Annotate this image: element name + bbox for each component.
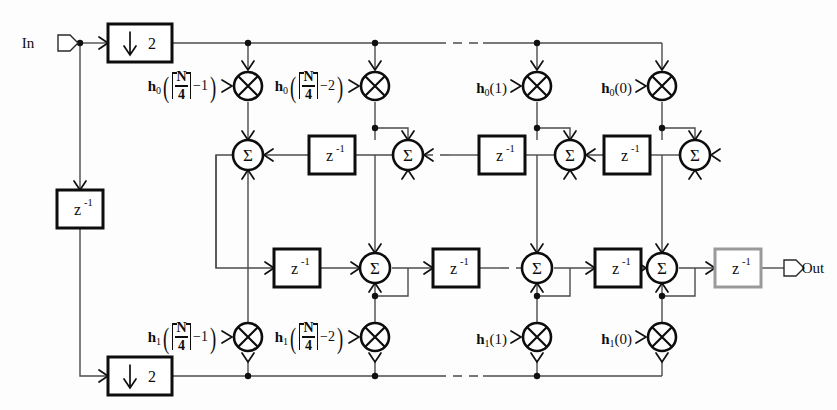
junction-msum2-hook — [534, 293, 540, 299]
arrowhead-h1mult3-bottom — [531, 353, 543, 362]
delay-left-base: z — [74, 201, 81, 218]
wiring-layer — [80, 43, 784, 376]
delay-m2-exp: -1 — [460, 256, 469, 267]
delay-left-exp: -1 — [84, 197, 93, 208]
junction-h0tap2-branch — [372, 125, 378, 131]
junction-top-tap3 — [534, 40, 540, 46]
multiplier-h1-4[interactable] — [648, 323, 676, 351]
arrowhead-h0coef3 — [511, 80, 521, 92]
junction-bottom-tap1 — [245, 373, 251, 379]
summer-upper-3-symbol: Σ — [565, 146, 575, 165]
arrowhead-h0coef2 — [349, 80, 359, 92]
multiplier-h1-2[interactable] — [361, 323, 389, 351]
diagram-svg: In Out 2 2 z -1 z -1 z -1 z -1 z — [0, 0, 837, 410]
downsampler-lower-label: 2 — [148, 368, 156, 385]
arrowhead-layer — [74, 37, 720, 382]
summer-upper-2-symbol: Σ — [403, 146, 413, 165]
arrowhead-usum4-bottom — [689, 170, 701, 179]
arrowhead-usum2-bottom — [402, 170, 414, 179]
summer-upper-4-symbol: Σ — [690, 146, 700, 165]
multiplier-h0-3[interactable] — [523, 72, 551, 100]
delay-u4-base: z — [621, 147, 628, 164]
delay-m3-base: z — [612, 260, 619, 277]
input-label: In — [22, 35, 35, 51]
multiplier-h0-2[interactable] — [361, 72, 389, 100]
delay-u3-exp: -1 — [506, 143, 515, 154]
summer-middle-3-symbol: Σ — [657, 259, 667, 278]
multiplier-h1-3[interactable] — [523, 323, 551, 351]
label-layer: In Out 2 2 z -1 z -1 z -1 z -1 z — [22, 32, 825, 388]
delay-m2-base: z — [450, 260, 457, 277]
junction-top-tap1 — [245, 40, 251, 46]
arrowhead-usum3-bottom — [564, 170, 576, 179]
delay-u3-base: z — [496, 147, 503, 164]
delay-u2-base: z — [326, 147, 333, 164]
wire-usum1-to-middle-delay — [216, 155, 274, 268]
arrowhead-usum4-right — [711, 149, 720, 161]
downsampler-upper[interactable] — [108, 24, 172, 62]
arrowhead-h1mult2-bottom — [369, 353, 381, 362]
arrowhead-h0coef4 — [636, 80, 646, 92]
output-label: Out — [802, 260, 825, 276]
input-port-icon — [58, 35, 78, 51]
junction-msum1-hook — [372, 293, 378, 299]
summer-upper-1-symbol: Σ — [243, 146, 253, 165]
multiplier-h0-4[interactable] — [648, 72, 676, 100]
arrowhead-h1coef1 — [222, 331, 232, 343]
wire-delay-to-lower-ds — [80, 228, 108, 376]
junction-h0tap3-branch — [534, 125, 540, 131]
summer-middle-1-symbol: Σ — [370, 259, 380, 278]
delay-u4-exp: -1 — [631, 143, 640, 154]
delay-out-exp: -1 — [742, 256, 751, 267]
arrowhead-h0coef1 — [222, 80, 232, 92]
junction-h0tap4-branch — [659, 125, 665, 131]
multiplier-h1-1[interactable] — [234, 323, 262, 351]
junction-top-tap2 — [372, 40, 378, 46]
delay-m3-exp: -1 — [622, 256, 631, 267]
delay-m1-exp: -1 — [301, 256, 310, 267]
arrowhead-h1coef4 — [636, 331, 646, 343]
delay-out-base: z — [732, 260, 739, 277]
filter-diagram-canvas: In Out 2 2 z -1 z -1 z -1 z -1 z — [0, 0, 837, 410]
arrowhead-h1mult4-bottom — [656, 353, 668, 362]
multiplier-h0-1[interactable] — [234, 72, 262, 100]
arrowhead-h1coef3 — [511, 331, 521, 343]
block-layer — [57, 24, 804, 395]
downsampler-lower[interactable] — [108, 357, 172, 395]
summer-middle-2-symbol: Σ — [532, 259, 542, 278]
delay-u2-exp: -1 — [336, 143, 345, 154]
arrowhead-h1mult1-bottom — [242, 353, 254, 362]
junction-bottom-tap2 — [372, 373, 378, 379]
arrowhead-h1coef2 — [349, 331, 359, 343]
downsampler-upper-label: 2 — [148, 35, 156, 52]
delay-m1-base: z — [291, 260, 298, 277]
junction-msum3-hook — [659, 293, 665, 299]
junction-bottom-tap3 — [534, 373, 540, 379]
